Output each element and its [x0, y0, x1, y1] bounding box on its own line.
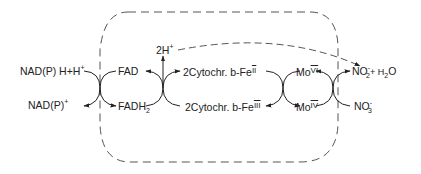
label-nadph-reduced: NAD(P) H+H+: [20, 65, 84, 77]
reaction-diagram: [0, 0, 421, 174]
label-molybdenum-4: MoIV: [296, 100, 318, 113]
label-fad: FAD: [118, 65, 138, 77]
label-nitrite-water: NO-2+ H2O: [352, 65, 396, 78]
label-nitrate: NO-3: [354, 100, 372, 112]
label-protons: 2H+: [156, 44, 174, 56]
proton-transfer-arrow: [178, 43, 360, 66]
enzyme-boundary: [100, 12, 338, 162]
label-nadp-oxidized: NAD(P)+: [28, 99, 68, 111]
label-cytochrome-fe2: 2Cytochr. b-FeII: [183, 65, 256, 78]
junction-fad-cyt: [146, 56, 180, 106]
junction-cyt-mo: [266, 71, 300, 106]
junction-mo-nitrate: [316, 71, 350, 106]
label-fadh2: FADH2: [118, 100, 150, 112]
label-cytochrome-fe3: 2Cytochr. b-FeIII: [185, 100, 261, 113]
label-molybdenum-6: MoVI: [296, 65, 318, 78]
